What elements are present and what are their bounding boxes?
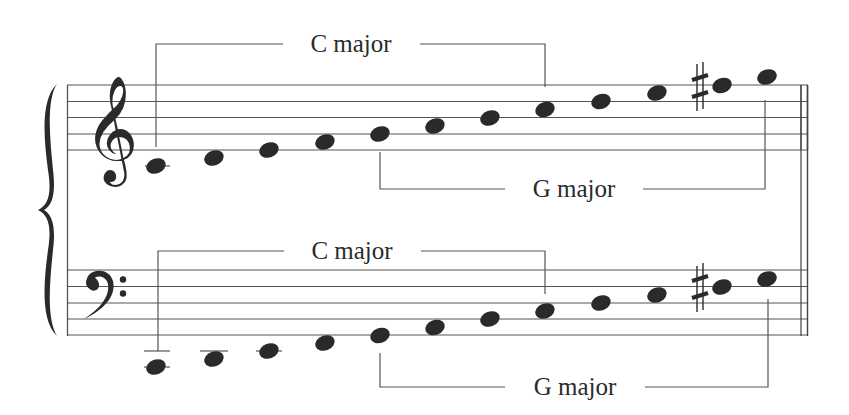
note-c4 bbox=[144, 156, 168, 177]
note-e2 bbox=[257, 341, 281, 362]
note-g5 bbox=[755, 67, 779, 88]
treble-notes bbox=[144, 67, 779, 177]
bass-c-major-bracket bbox=[158, 251, 545, 351]
note-c2 bbox=[144, 357, 168, 378]
note-d5 bbox=[589, 91, 613, 112]
treble-c-major-label: C major bbox=[310, 30, 392, 57]
note-f-sharp-3 bbox=[710, 277, 734, 298]
treble-c-major-bracket bbox=[156, 44, 545, 147]
note-g4 bbox=[368, 124, 392, 145]
brace-icon bbox=[38, 84, 57, 336]
note-e3 bbox=[645, 285, 669, 306]
note-d2 bbox=[202, 349, 226, 370]
bass-clef-icon bbox=[84, 271, 126, 319]
bass-c-major-label: C major bbox=[311, 237, 393, 264]
note-b2 bbox=[478, 309, 502, 330]
note-e5 bbox=[645, 83, 669, 104]
note-f4 bbox=[313, 132, 337, 153]
note-d3 bbox=[589, 293, 613, 314]
note-b4 bbox=[478, 108, 502, 129]
note-g2 bbox=[368, 325, 392, 346]
note-d4 bbox=[202, 148, 226, 169]
note-a4 bbox=[423, 116, 447, 137]
note-f2 bbox=[313, 333, 337, 354]
bass-g-major-label: G major bbox=[534, 373, 617, 400]
note-c5 bbox=[533, 99, 557, 120]
grand-staff-diagram: 𝄞 C major G major bbox=[0, 0, 849, 415]
note-c3 bbox=[533, 301, 557, 322]
svg-text:𝄞: 𝄞 bbox=[84, 75, 138, 187]
note-f-sharp-5 bbox=[710, 75, 734, 96]
treble-clef-icon: 𝄞 bbox=[84, 75, 138, 187]
treble-g-major-label: G major bbox=[533, 175, 616, 202]
bass-notes bbox=[144, 269, 779, 378]
note-e4 bbox=[257, 140, 281, 161]
sharp-icon bbox=[692, 62, 708, 111]
